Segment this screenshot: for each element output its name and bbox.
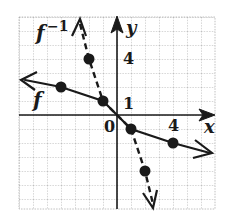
point-finv-neg2-4	[84, 54, 95, 65]
point-f-neg4-2	[56, 82, 67, 93]
tick-label-y4: 4	[123, 49, 134, 68]
origin-label: 0	[104, 117, 115, 136]
tick-label-x4: 4	[168, 116, 179, 135]
point-neg1-1	[98, 96, 109, 107]
y-axis-label: y	[125, 17, 138, 38]
point-1-neg1	[126, 124, 137, 135]
f-inverse-superscript: −1	[47, 18, 68, 34]
point-f-4-neg2	[168, 138, 179, 149]
x-axis-label: x	[203, 116, 215, 137]
tick-label-y1: 1	[123, 94, 134, 113]
point-finv-2-neg4	[140, 166, 151, 177]
function-inverse-graph: f −1 f y x 4 1 0 4	[0, 0, 226, 211]
